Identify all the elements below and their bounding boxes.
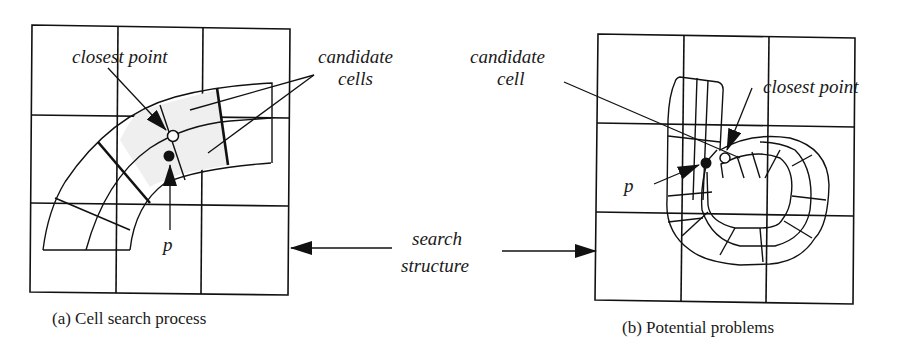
panel-b-candidate-label-line2: cell xyxy=(497,68,524,89)
panel-b-point-p-marker xyxy=(701,158,712,169)
panel-b-candidate-leader xyxy=(564,82,740,158)
panel-b-candidate-label-line1: candidate xyxy=(470,46,545,67)
panel-a-closest-point-label: closest point xyxy=(72,46,168,67)
panel-a-p-label: p xyxy=(161,234,173,255)
panel-b: candidate cell closest point p (b) Poten… xyxy=(470,34,859,337)
panel-b-closest-point-marker xyxy=(720,153,730,163)
panel-b-caption: (b) Potential problems xyxy=(622,318,774,337)
panel-a-candidate-label-line2: cells xyxy=(338,68,373,89)
panel-b-closest-point-label: closest point xyxy=(763,76,859,97)
panel-a-point-p-marker xyxy=(164,151,175,162)
panel-a-caption: (a) Cell search process xyxy=(52,309,206,328)
search-structure-annotation: search structure xyxy=(291,228,596,276)
panel-a-closest-point-marker xyxy=(168,131,179,142)
figure-canvas: closest point candidate cells p (a) Cell… xyxy=(0,0,903,359)
panel-b-p-leader xyxy=(654,165,699,184)
panel-a-candidate-label-line1: candidate xyxy=(318,46,393,67)
panel-b-p-label: p xyxy=(622,175,634,196)
panel-a: closest point candidate cells p (a) Cell… xyxy=(30,25,393,328)
search-structure-label-line1: search xyxy=(412,228,462,249)
panel-b-mesh xyxy=(667,77,829,265)
search-structure-label-line2: structure xyxy=(401,255,469,276)
